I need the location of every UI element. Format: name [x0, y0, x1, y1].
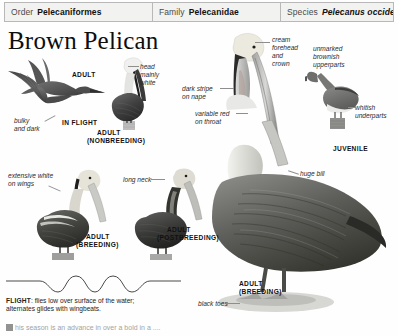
annotation-long-neck: long neck: [123, 176, 151, 184]
annotation-adult-postbreeding-1: ADULT: [167, 226, 191, 234]
annotation-variable-red-on-throat: variable red on throat: [195, 110, 229, 126]
annotation-whitish-underparts: whitish underparts: [355, 104, 387, 120]
leader-line-throat: [236, 113, 248, 114]
annotation-adult-breeding-main-1: ADULT: [239, 280, 263, 288]
order-rank-label: Order: [11, 7, 33, 17]
annotation-dark-stripe-on-nape: dark stripe on nape: [182, 85, 213, 101]
annotation-adult-nonbreeding-2: (NONBREEDING): [87, 137, 145, 145]
annotation-in-flight: IN FLIGHT: [62, 119, 97, 127]
family-rank-label: Family: [159, 7, 185, 17]
annotation-juvenile: JUVENILE: [333, 145, 368, 153]
illustration-adult-breeding-main: [200, 120, 398, 318]
leader-line-underparts: [348, 107, 356, 108]
flight-heading: FLIGHT: [6, 297, 31, 304]
field-guide-page: Order Pelecaniformes Family Pelecanidae …: [0, 0, 398, 336]
species-name-value: Pelecanus occidentalis: [322, 7, 393, 17]
bottom-clipped-text: his season is an advance in over a bold …: [6, 324, 256, 336]
flight-path-diagram: [6, 272, 181, 298]
annotation-extensive-white-on-wings: extensive white on wings: [8, 172, 53, 188]
annotation-adult-nonbreeding-1: ADULT: [97, 129, 121, 137]
taxonomy-family-cell: Family Pelecanidae: [153, 3, 281, 21]
annotation-adult-breeding-main-2: (BREEDING): [239, 288, 282, 296]
bottom-clipped-label: his season is an advance in over a bold …: [15, 324, 161, 331]
annotation-adult-in-flight-top: ADULT: [72, 71, 96, 79]
annotation-huge-bill: huge bill: [300, 170, 325, 178]
annotation-adult-breeding-left-2: (BREEDING): [76, 241, 119, 249]
bullet-square-icon: [6, 324, 13, 331]
leader-line-head-white: [128, 66, 139, 67]
flight-text-line2: alternates glides with wingbeats.: [6, 305, 101, 312]
flight-caption: FLIGHT: flies low over surface of the wa…: [6, 297, 196, 314]
leader-line-nape: [220, 88, 234, 89]
annotation-cream-forehead-and-crown: cream forehead and crown: [272, 36, 298, 68]
illustration-adult-in-flight: [6, 58, 106, 118]
flight-text: : flies low over surface of the water;: [31, 297, 134, 304]
leader-line-crown: [255, 42, 270, 43]
annotation-black-toes: black toes: [198, 300, 228, 308]
page-title: Brown Pelican: [8, 27, 159, 55]
species-rank-label: Species: [287, 7, 318, 17]
annotation-unmarked-brownish-upperparts: unmarked brownish upperparts: [313, 45, 345, 69]
annotation-adult-postbreeding-2: (POSTBREEDING): [157, 234, 219, 242]
annotation-bulky-and-dark: bulky and dark: [14, 117, 40, 133]
leader-line-black-toes: [226, 303, 240, 304]
order-name-value: Pelecaniformes: [37, 7, 101, 17]
taxonomy-order-cell: Order Pelecaniformes: [5, 3, 153, 21]
family-name-value: Pelecanidae: [189, 7, 239, 17]
annotation-head-mainly-white: head mainly white: [140, 63, 159, 87]
annotation-adult-breeding-left-1: ADULT: [86, 233, 110, 241]
leader-line-long-neck: [151, 179, 165, 180]
taxonomy-header: Order Pelecaniformes Family Pelecanidae …: [4, 2, 394, 22]
taxonomy-species-cell: Species Pelecanus occidentalis: [281, 3, 393, 21]
